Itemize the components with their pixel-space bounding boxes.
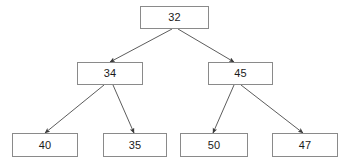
tree-node-left[interactable]: 34 [77,62,143,85]
tree-node-label: 45 [234,68,247,79]
tree-node-right[interactable]: 45 [208,62,273,85]
tree-edge [213,85,234,133]
tree-node-label: 47 [299,140,312,151]
tree-node-leaf-1[interactable]: 40 [12,133,78,157]
tree-node-label: 34 [104,68,117,79]
tree-edge [113,85,134,133]
tree-edge [241,85,303,133]
tree-node-leaf-3[interactable]: 50 [180,133,248,157]
tree-node-label: 35 [129,140,142,151]
tree-edge [178,29,234,62]
tree-node-label: 32 [168,12,181,23]
diagram-canvas: 32 34 45 40 35 50 47 [0,0,349,166]
tree-node-leaf-4[interactable]: 47 [272,133,338,157]
tree-node-leaf-2[interactable]: 35 [103,133,167,157]
tree-node-label: 40 [39,140,52,151]
tree-node-root[interactable]: 32 [140,6,209,29]
tree-edge [45,85,104,133]
tree-edge [110,29,172,62]
tree-node-label: 50 [208,140,221,151]
